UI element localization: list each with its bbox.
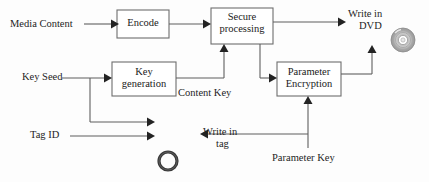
box-label-parameter-encryption-line1: Parameter (277, 66, 341, 77)
connector-keygen-to-secure (176, 44, 229, 78)
label-write-in-dvd-line1: Write in (348, 8, 382, 19)
connector-keyseed-to-keygen (62, 74, 112, 83)
box-label-key-generation-line1: Key (112, 66, 176, 77)
rfid-tag-ring-icon (159, 152, 177, 170)
label-media-content: Media Content (10, 18, 73, 29)
label-write-in-tag-line1: Write in (203, 126, 237, 137)
box-label-encode: Encode (117, 17, 169, 28)
connector-tagid-to-writetag (70, 132, 155, 141)
box-label-key-generation-line2: generation (112, 78, 176, 89)
label-parameter-key: Parameter Key (272, 152, 335, 163)
dvd-disc-icon (391, 28, 415, 52)
diagram-canvas: Encode Secure processing Key generation … (0, 0, 429, 182)
box-label-parameter-encryption-line2: Encryption (277, 78, 341, 89)
box-label-secure-processing-line1: Secure (211, 11, 273, 22)
label-key-seed: Key Seed (22, 71, 63, 82)
connector-paramkey-to-paramenc (304, 96, 313, 148)
connector-encode-to-secure (169, 20, 211, 29)
connector-media-to-encode (84, 20, 119, 29)
label-write-in-tag-line2: tag (216, 138, 229, 149)
connector-paramenc-to-dvd (341, 45, 377, 74)
label-tag-id: Tag ID (30, 129, 59, 140)
connector-secure-to-dvd (273, 18, 346, 27)
box-label-secure-processing-line2: processing (211, 23, 273, 34)
connector-secure-to-paramenc (260, 44, 277, 83)
label-content-key: Content Key (178, 87, 231, 98)
label-write-in-dvd-line2: DVD (359, 20, 382, 31)
